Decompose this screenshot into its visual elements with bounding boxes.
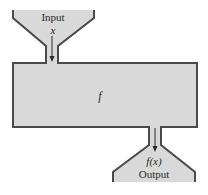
- input-variable: x: [50, 24, 56, 36]
- output-label: Output: [139, 168, 170, 180]
- input-label: Input: [41, 11, 64, 23]
- output-expression: f(x): [146, 155, 162, 168]
- machine-box: [13, 63, 197, 127]
- function-machine-diagram: Input x f f(x) Output: [0, 0, 208, 195]
